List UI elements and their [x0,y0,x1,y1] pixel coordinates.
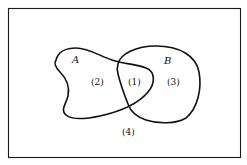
region-2-label: (2) [91,77,104,87]
venn-diagram: A B (2) (1) (3) (4) [0,0,247,165]
region-3-label: (3) [167,77,180,87]
region-4-label: (4) [122,127,135,137]
set-b-label: B [163,55,171,66]
set-a-label: A [71,54,79,65]
region-1-label: (1) [128,77,141,87]
